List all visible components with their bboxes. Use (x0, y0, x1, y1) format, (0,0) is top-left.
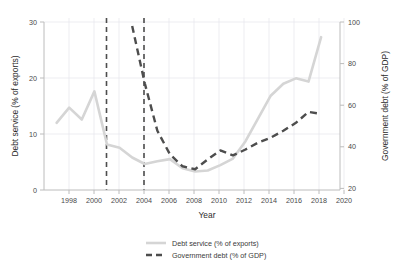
left-axis: 30 20 10 0 Debt service (% of exports) (10, 18, 44, 195)
y2-axis-title: Government debt (% of GDP) (380, 51, 390, 161)
x-axis: 1998 2000 2002 2004 2006 2008 2010 2012 … (44, 190, 352, 220)
x-tick-label-2010: 2010 (211, 196, 227, 205)
right-tick-label-20: 20 (348, 184, 356, 193)
left-tick-label-10: 10 (29, 130, 37, 139)
left-tick-label-30: 30 (29, 18, 37, 27)
x-tick-label-2014: 2014 (261, 196, 277, 205)
right-tick-label-40: 40 (348, 142, 356, 151)
x-tick-label-2006: 2006 (161, 196, 177, 205)
series-line-debt-service (57, 37, 322, 171)
legend-label-government-debt: Government debt (% of GDP) (172, 251, 266, 260)
right-tick-label-100: 100 (348, 18, 360, 27)
line-chart: 30 20 10 0 Debt service (% of exports) 1… (0, 0, 397, 268)
x-tick-label-2012: 2012 (236, 196, 252, 205)
x-tick-label-2004: 2004 (136, 196, 152, 205)
x-tick-label-2002: 2002 (111, 196, 127, 205)
x-tick-label-2000: 2000 (86, 196, 102, 205)
x-tick-label-2008: 2008 (186, 196, 202, 205)
right-tick-label-60: 60 (348, 101, 356, 110)
x-axis-title: Year (199, 210, 216, 220)
reference-lines (107, 18, 145, 190)
x-tick-label-1998: 1998 (61, 196, 77, 205)
chart-legend: Debt service (% of exports) Government d… (146, 239, 266, 260)
legend-label-debt-service: Debt service (% of exports) (172, 239, 259, 248)
right-tick-label-80: 80 (348, 59, 356, 68)
right-axis: 100 80 60 40 20 Government debt (% of GD… (340, 18, 390, 193)
left-tick-label-0: 0 (33, 186, 37, 195)
y-axis-title: Debt service (% of exports) (10, 55, 20, 156)
left-tick-label-20: 20 (29, 74, 37, 83)
x-tick-label-2016: 2016 (286, 196, 302, 205)
x-tick-label-2020: 2020 (336, 196, 352, 205)
x-tick-label-2018: 2018 (311, 196, 327, 205)
series-line-government-debt (132, 26, 321, 169)
chart-figure: 30 20 10 0 Debt service (% of exports) 1… (0, 0, 397, 268)
